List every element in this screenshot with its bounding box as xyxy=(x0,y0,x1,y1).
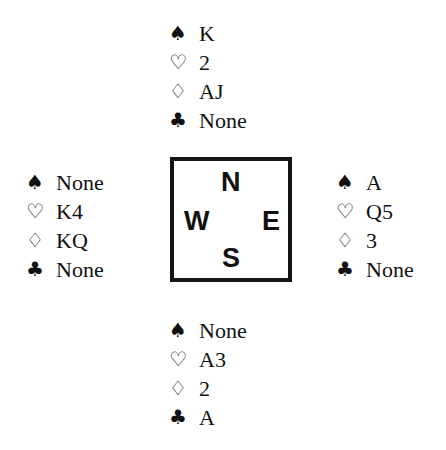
west-hearts-cards: K4 xyxy=(56,197,83,226)
north-diamonds-cards: AJ xyxy=(199,77,223,106)
spade-icon: ♠ xyxy=(167,316,189,345)
diamond-icon: ♢ xyxy=(167,77,189,106)
east-hearts-cards: Q5 xyxy=(366,197,393,226)
compass-west: W xyxy=(184,206,209,237)
south-diamonds-cards: 2 xyxy=(199,374,210,403)
south-spades-cards: None xyxy=(199,316,247,345)
compass-box: N W E S xyxy=(170,157,292,282)
club-icon: ♣ xyxy=(334,255,356,284)
spade-icon: ♠ xyxy=(167,19,189,48)
north-clubs-cards: None xyxy=(199,106,247,135)
east-spades-cards: A xyxy=(366,168,382,197)
heart-icon: ♡ xyxy=(334,197,356,226)
heart-icon: ♡ xyxy=(24,197,46,226)
south-clubs-cards: A xyxy=(199,403,215,432)
spade-icon: ♠ xyxy=(334,168,356,197)
compass-south: S xyxy=(222,243,240,274)
compass-east: E xyxy=(262,206,280,237)
west-diamonds-cards: KQ xyxy=(56,226,88,255)
heart-icon: ♡ xyxy=(167,345,189,374)
east-diamonds-cards: 3 xyxy=(366,226,377,255)
west-spades-cards: None xyxy=(56,168,104,197)
spade-icon: ♠ xyxy=(24,168,46,197)
club-icon: ♣ xyxy=(24,255,46,284)
east-clubs-cards: None xyxy=(366,255,414,284)
compass-north: N xyxy=(221,167,241,198)
north-spades-cards: K xyxy=(199,19,215,48)
south-hearts-cards: A3 xyxy=(199,345,226,374)
heart-icon: ♡ xyxy=(167,48,189,77)
west-clubs-cards: None xyxy=(56,255,104,284)
diamond-icon: ♢ xyxy=(334,226,356,255)
club-icon: ♣ xyxy=(167,106,189,135)
club-icon: ♣ xyxy=(167,403,189,432)
north-hearts-cards: 2 xyxy=(199,48,210,77)
diamond-icon: ♢ xyxy=(167,374,189,403)
diamond-icon: ♢ xyxy=(24,226,46,255)
